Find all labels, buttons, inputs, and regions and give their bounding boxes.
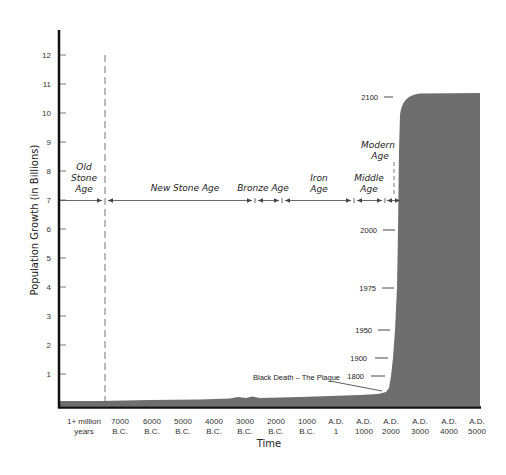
x-tick-label: years bbox=[74, 427, 94, 436]
era-old-stone-age-line2: Stone bbox=[71, 173, 97, 183]
era-iron-age-line1: Iron bbox=[310, 173, 328, 183]
y-axis-title: Population Growth (in Billions) bbox=[29, 144, 40, 295]
black-death-label: Black Death – The Plague bbox=[253, 373, 340, 382]
year-marker-label: 1800 bbox=[347, 372, 364, 381]
x-tick-label: A.D. bbox=[412, 417, 428, 426]
x-tick-label: A.D. bbox=[469, 417, 485, 426]
population-growth-chart: 123456789101112 Population Growth (in Bi… bbox=[0, 0, 506, 475]
x-tick-label: B.C. bbox=[268, 427, 284, 436]
x-tick-label: B.C. bbox=[112, 427, 128, 436]
x-tick-label: 4000 bbox=[440, 427, 458, 436]
x-tick-label: 3000 bbox=[236, 417, 254, 426]
x-tick-labels: 1+ millionyears7000B.C.6000B.C.5000B.C.4… bbox=[67, 417, 486, 436]
x-tick-label: 1000 bbox=[355, 427, 373, 436]
x-tick-label: B.C. bbox=[299, 427, 315, 436]
year-marker-label: 1900 bbox=[350, 354, 367, 363]
year-marker-label: 2000 bbox=[360, 226, 377, 235]
x-tick-label: 5000 bbox=[468, 427, 486, 436]
x-tick-label: B.C. bbox=[144, 427, 160, 436]
era-bronze-age: Bronze Age bbox=[237, 183, 289, 193]
y-tick-label: 3 bbox=[47, 312, 52, 321]
era-modern-age-line2: Age bbox=[370, 151, 389, 161]
era-old-stone-age-line3: Age bbox=[74, 184, 93, 194]
x-tick-label: 2000 bbox=[382, 427, 400, 436]
x-tick-label: 5000 bbox=[174, 417, 192, 426]
era-middle-age-line1: Middle bbox=[354, 173, 384, 183]
y-tick-label: 12 bbox=[42, 51, 51, 60]
x-tick-label: 1 bbox=[334, 427, 339, 436]
y-tick-label: 11 bbox=[43, 80, 52, 89]
era-arrows bbox=[60, 198, 400, 203]
y-ticks: 123456789101112 bbox=[42, 51, 66, 379]
era-old-stone-age-line1: Old bbox=[76, 162, 92, 172]
x-tick-label: 4000 bbox=[205, 417, 223, 426]
x-tick-label: A.D. bbox=[383, 417, 399, 426]
era-modern-age-line1: Modern bbox=[361, 140, 395, 150]
year-marker-label: 1950 bbox=[355, 326, 372, 335]
y-tick-label: 10 bbox=[42, 109, 51, 118]
y-tick-label: 6 bbox=[47, 225, 52, 234]
x-tick-label: A.D. bbox=[356, 417, 372, 426]
x-tick-label: B.C. bbox=[237, 427, 253, 436]
y-tick-label: 5 bbox=[47, 254, 52, 263]
x-axis-title: Time bbox=[256, 438, 281, 449]
x-tick-label: 1+ million bbox=[67, 417, 101, 426]
x-tick-label: 3000 bbox=[411, 427, 429, 436]
era-labels: Old Stone Age New Stone Age Bronze Age I… bbox=[71, 140, 395, 194]
era-iron-age-line2: Age bbox=[309, 184, 328, 194]
year-marker-label: 1975 bbox=[359, 284, 376, 293]
y-tick-label: 2 bbox=[47, 341, 52, 350]
y-tick-label: 9 bbox=[47, 138, 52, 147]
year-markers: 210020001975195019001800 bbox=[347, 93, 395, 381]
era-middle-age-line2: Age bbox=[359, 184, 378, 194]
x-tick-label: B.C. bbox=[175, 427, 191, 436]
x-tick-label: 7000 bbox=[111, 417, 129, 426]
population-area bbox=[59, 93, 480, 406]
y-tick-label: 4 bbox=[47, 283, 52, 292]
x-tick-label: 2000 bbox=[267, 417, 285, 426]
era-new-stone-age: New Stone Age bbox=[151, 183, 220, 193]
y-tick-label: 7 bbox=[47, 196, 52, 205]
y-tick-label: 8 bbox=[47, 167, 52, 176]
x-tick-label: A.D. bbox=[328, 417, 344, 426]
x-tick-label: 1000 bbox=[298, 417, 316, 426]
x-tick-label: A.D. bbox=[441, 417, 457, 426]
year-marker-label: 2100 bbox=[361, 93, 378, 102]
y-tick-label: 1 bbox=[47, 370, 52, 379]
x-tick-label: B.C. bbox=[206, 427, 222, 436]
x-tick-label: 6000 bbox=[143, 417, 161, 426]
